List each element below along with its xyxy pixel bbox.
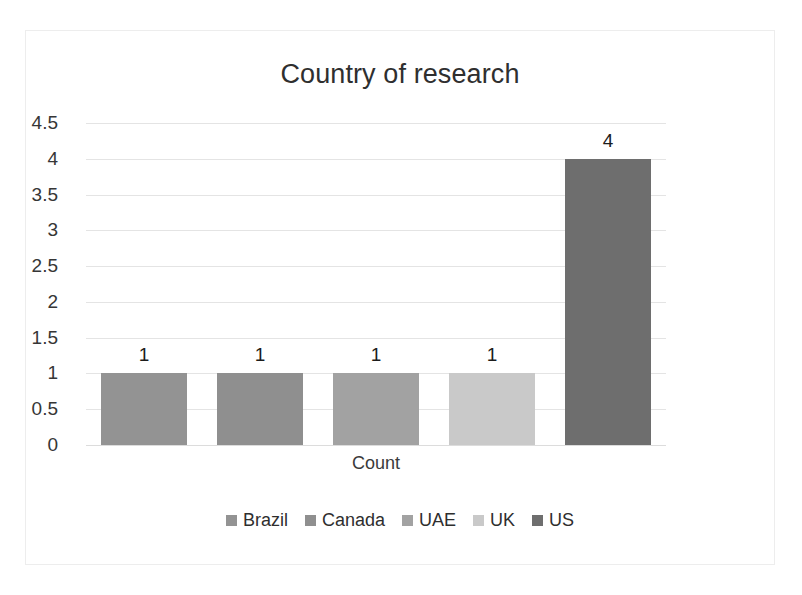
legend-swatch-icon [305, 515, 316, 526]
y-axis-tick-label: 3 [0, 219, 58, 241]
chart-title: Country of research [26, 59, 774, 90]
bar-series: 11114 [86, 123, 666, 445]
legend-label: Brazil [243, 511, 288, 529]
legend-label: US [549, 511, 574, 529]
bar-uae[interactable]: 1 [333, 373, 419, 445]
legend-label: Canada [322, 511, 385, 529]
y-axis-tick-label: 1 [0, 362, 58, 384]
legend-item-brazil[interactable]: Brazil [226, 511, 288, 529]
legend-label: UAE [419, 511, 456, 529]
plot-area: 00.511.522.533.544.5 11114 [86, 123, 666, 445]
legend-item-canada[interactable]: Canada [305, 511, 385, 529]
legend-item-uk[interactable]: UK [473, 511, 515, 529]
bar-uk[interactable]: 1 [449, 373, 535, 445]
bar-brazil[interactable]: 1 [101, 373, 187, 445]
bar-value-label: 1 [449, 344, 535, 366]
y-axis-tick-label: 3.5 [0, 184, 58, 206]
y-axis-tick-label: 1.5 [0, 327, 58, 349]
y-axis-tick-label: 0.5 [0, 398, 58, 420]
legend-item-us[interactable]: US [532, 511, 574, 529]
bar-value-label: 1 [101, 344, 187, 366]
legend-swatch-icon [226, 515, 237, 526]
y-axis-tick-label: 2 [0, 291, 58, 313]
bar-value-label: 1 [333, 344, 419, 366]
bar-value-label: 4 [565, 130, 651, 152]
y-axis-tick-label: 0 [0, 434, 58, 456]
bar-value-label: 1 [217, 344, 303, 366]
gridline [86, 445, 666, 446]
y-axis-tick-label: 4.5 [0, 112, 58, 134]
legend-item-uae[interactable]: UAE [402, 511, 456, 529]
y-axis-tick-label: 4 [0, 148, 58, 170]
legend-swatch-icon [402, 515, 413, 526]
x-axis-label: Count [86, 453, 666, 474]
bar-canada[interactable]: 1 [217, 373, 303, 445]
legend-swatch-icon [532, 515, 543, 526]
bar-us[interactable]: 4 [565, 159, 651, 445]
chart-container: Country of research 00.511.522.533.544.5… [25, 30, 775, 565]
legend-label: UK [490, 511, 515, 529]
y-axis-tick-label: 2.5 [0, 255, 58, 277]
chart-legend: BrazilCanadaUAEUKUS [26, 511, 774, 529]
legend-swatch-icon [473, 515, 484, 526]
